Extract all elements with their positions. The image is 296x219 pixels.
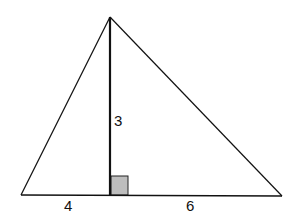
right-angle-marker <box>111 176 128 195</box>
left-segment-label: 4 <box>64 197 72 214</box>
base <box>21 195 282 196</box>
right-segment-label: 6 <box>186 197 194 214</box>
altitude-label: 3 <box>114 112 122 129</box>
left-side <box>21 17 110 195</box>
triangle-diagram: 3 4 6 <box>0 0 296 219</box>
right-side <box>110 17 282 196</box>
